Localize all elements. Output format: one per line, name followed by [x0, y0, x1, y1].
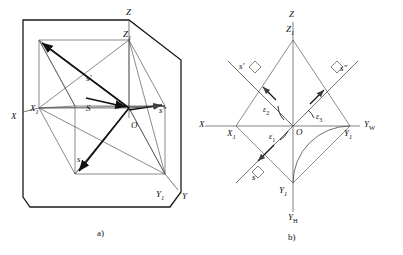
- figure-root: Z Z1 X X1 Y Y1 O S s' s″ s a): [0, 0, 403, 255]
- panel-b-ray-s-double-prime: [293, 61, 358, 126]
- panel-b-label-vector-s-double-prime: s″: [340, 64, 347, 73]
- panel-b-axes: [205, 22, 360, 212]
- panel-b-label-origin: O: [296, 128, 303, 137]
- panel-b-angle-epsilon-1: ε1: [269, 132, 275, 143]
- panel-b-label-yh: YH: [288, 213, 298, 224]
- panel-b-angle-epsilon-3: ε3: [316, 112, 322, 123]
- panel-b-label-yw: YW: [364, 120, 375, 131]
- panel-b-label-x1: X1: [227, 129, 236, 140]
- panel-b-ray-s-prime: [228, 61, 293, 126]
- panel-b-label-y1-bottom: Y1: [279, 186, 287, 197]
- panel-b-label-y1-right: Y1: [344, 129, 352, 140]
- panel-b-label-z: Z: [289, 10, 294, 19]
- panel-b-caption: b): [288, 232, 296, 242]
- panel-b-label-vector-s-prime: s': [239, 62, 244, 71]
- panel-b-label-vector-s: s: [252, 173, 256, 182]
- panel-b-angle-epsilon-2: ε2: [263, 105, 269, 116]
- panel-b-label-z1: Z1: [286, 25, 294, 36]
- panel-b-label-x: X: [199, 120, 205, 129]
